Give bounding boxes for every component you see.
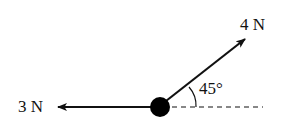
point-mass [150, 97, 170, 117]
angle-label: 45° [199, 80, 223, 97]
force-4n-label: 4 N [240, 16, 265, 33]
force-diagram: 3 N 4 N 45° [0, 0, 293, 127]
force-3n-label: 3 N [18, 98, 43, 115]
angle-arc [189, 87, 196, 107]
